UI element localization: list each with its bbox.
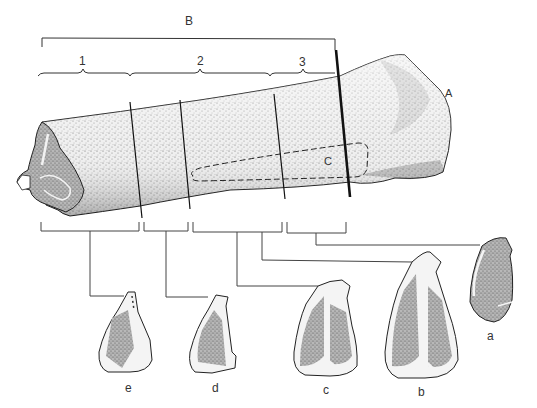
bone-shaft bbox=[42, 55, 451, 216]
label-section-a: a bbox=[487, 329, 494, 343]
label-c: C bbox=[324, 155, 332, 167]
label-section-d: d bbox=[212, 381, 219, 395]
bone-diagram: B 1 2 3 C A bbox=[0, 0, 537, 408]
lower-brackets bbox=[41, 222, 346, 233]
segment-braces bbox=[38, 69, 335, 76]
span-bracket-b bbox=[42, 38, 335, 50]
cross-section-b bbox=[385, 252, 458, 378]
label-a-end: A bbox=[445, 87, 453, 99]
cross-section-e bbox=[99, 292, 152, 372]
cross-section-a bbox=[470, 238, 513, 322]
cross-section-d bbox=[190, 295, 236, 373]
cross-section-c bbox=[294, 280, 357, 376]
label-section-e: e bbox=[125, 381, 132, 395]
label-section-b: b bbox=[418, 385, 425, 399]
label-b: B bbox=[185, 14, 193, 28]
label-section-c: c bbox=[323, 383, 329, 397]
label-segment-3: 3 bbox=[299, 55, 306, 69]
label-segment-2: 2 bbox=[197, 54, 204, 68]
label-segment-1: 1 bbox=[79, 54, 86, 68]
